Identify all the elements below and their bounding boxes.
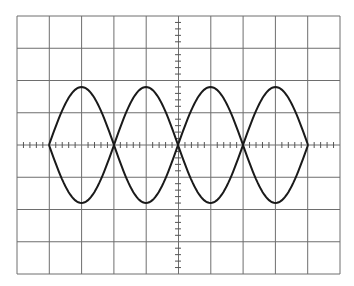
oscilloscope-screen xyxy=(0,0,354,286)
